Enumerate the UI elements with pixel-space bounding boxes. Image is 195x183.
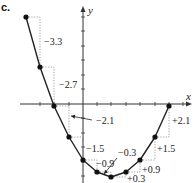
leader-arrow-icon bbox=[71, 115, 75, 119]
difference-label: +0.9 bbox=[142, 164, 160, 175]
difference-label: −2.7 bbox=[59, 79, 77, 90]
x-axis-arrow-icon bbox=[186, 102, 192, 107]
difference-label: +1.5 bbox=[157, 143, 175, 154]
data-point bbox=[166, 103, 171, 108]
difference-label: −3.3 bbox=[44, 36, 62, 47]
difference-label: −1.5 bbox=[86, 143, 104, 154]
x-axis-label: x bbox=[185, 90, 191, 102]
data-point bbox=[66, 134, 71, 139]
difference-label: −0.9 bbox=[96, 158, 114, 169]
finite-differences-diagram: c. −3.3−2.7−2.1−1.5−0.9−0.3+0.3+0.9+1.5+… bbox=[0, 0, 195, 183]
difference-label: −0.3 bbox=[118, 147, 136, 158]
data-point bbox=[37, 64, 42, 69]
data-point bbox=[152, 134, 157, 139]
data-point bbox=[51, 103, 56, 108]
data-point bbox=[23, 14, 28, 19]
difference-label: −2.1 bbox=[96, 115, 114, 126]
difference-labels: −3.3−2.7−2.1−1.5−0.9−0.3+0.3+0.9+1.5+2.1 bbox=[44, 36, 190, 183]
y-axis-arrow-icon bbox=[81, 6, 86, 12]
difference-label: +2.1 bbox=[172, 115, 190, 126]
part-label: c. bbox=[1, 1, 10, 13]
data-point bbox=[137, 157, 142, 162]
data-point bbox=[94, 169, 99, 174]
y-axis-label: y bbox=[87, 4, 93, 16]
data-point bbox=[80, 157, 85, 162]
data-point bbox=[108, 174, 113, 179]
axes bbox=[20, 6, 192, 183]
